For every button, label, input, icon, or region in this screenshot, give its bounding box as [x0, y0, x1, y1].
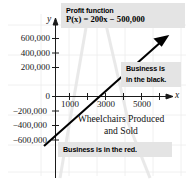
red-region-callout: Business is in the red.	[58, 142, 172, 157]
y-tick-label-0: 0	[4, 91, 50, 101]
profit-function-figure: 600,000 400,000 200,000 0 −200,000 −400,…	[0, 0, 187, 182]
title-callout: Profit function P(x) = 200x − 500,000	[61, 3, 185, 28]
x-axis-caption-line2: and Sold	[58, 125, 184, 137]
y-tick-label-200000: 200,000	[4, 62, 50, 72]
x-tick-label-1000: 1000	[55, 99, 85, 109]
y-tick-label-600000: 600,000	[4, 33, 50, 43]
y-tick-label-400000: 400,000	[4, 48, 50, 58]
black-region-line1: Business is	[126, 64, 177, 75]
y-axis-letter: y	[47, 14, 51, 24]
x-axis-caption: Wheelchairs Produced and Sold	[58, 113, 184, 136]
y-tick-label-neg600000: −600,000	[1, 135, 47, 145]
y-tick-label-neg400000: −400,000	[1, 120, 47, 130]
title-equation: P(x) = 200x − 500,000	[66, 15, 180, 25]
x-axis-caption-line1: Wheelchairs Produced	[58, 113, 184, 125]
x-tick-label-3000: 3000	[91, 99, 121, 109]
y-tick-label-neg200000: −200,000	[1, 106, 47, 116]
x-axis-letter: x	[175, 90, 179, 100]
black-region-line2: in the black.	[126, 75, 177, 86]
black-region-callout: Business is in the black.	[121, 62, 181, 87]
x-tick-label-5000: 5000	[127, 99, 157, 109]
